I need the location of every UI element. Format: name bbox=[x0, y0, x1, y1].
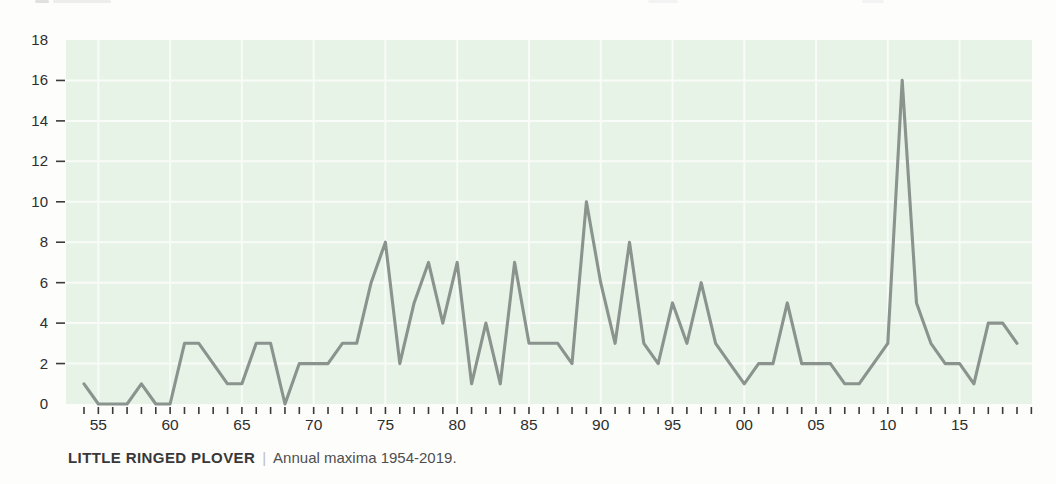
y-axis-label: 2 bbox=[40, 355, 48, 372]
x-axis-label: 75 bbox=[377, 416, 394, 433]
caption-species: LITTLE RINGED PLOVER bbox=[68, 449, 255, 466]
x-axis-label: 70 bbox=[305, 416, 323, 433]
y-axis-label: 6 bbox=[40, 274, 48, 291]
y-axis-label: 4 bbox=[40, 314, 48, 331]
x-axis-label: 15 bbox=[951, 416, 968, 433]
chart-caption: LITTLE RINGED PLOVER|Annual maxima 1954-… bbox=[68, 449, 457, 466]
x-axis-label: 90 bbox=[592, 416, 610, 433]
y-axis-label: 18 bbox=[31, 31, 48, 48]
x-axis-label: 85 bbox=[520, 416, 537, 433]
y-axis-label: 10 bbox=[31, 193, 48, 210]
x-axis-label: 10 bbox=[879, 416, 897, 433]
y-axis-label: 8 bbox=[40, 233, 48, 250]
y-axis-label: 14 bbox=[31, 112, 48, 129]
x-axis-label: 55 bbox=[90, 416, 107, 433]
x-axis-ticks bbox=[84, 407, 1031, 414]
x-axis-label: 95 bbox=[664, 416, 681, 433]
caption-description: Annual maxima 1954-2019. bbox=[273, 449, 456, 466]
y-axis-ticks bbox=[56, 80, 65, 363]
y-axis-labels: 024681012141618 bbox=[31, 31, 48, 412]
x-axis-label: 60 bbox=[161, 416, 179, 433]
x-axis-label: 05 bbox=[807, 416, 824, 433]
y-axis-label: 16 bbox=[31, 71, 48, 88]
y-axis-label: 0 bbox=[40, 395, 48, 412]
caption-separator: | bbox=[262, 449, 266, 466]
x-axis-label: 80 bbox=[449, 416, 467, 433]
y-axis-label: 12 bbox=[31, 152, 48, 169]
x-axis-labels: 55606570758085909500051015 bbox=[90, 416, 968, 433]
line-chart: 0246810121416185560657075808590950005101… bbox=[0, 0, 1056, 442]
x-axis-label: 00 bbox=[736, 416, 754, 433]
chart-page: 0246810121416185560657075808590950005101… bbox=[0, 0, 1056, 484]
x-axis-label: 65 bbox=[233, 416, 250, 433]
